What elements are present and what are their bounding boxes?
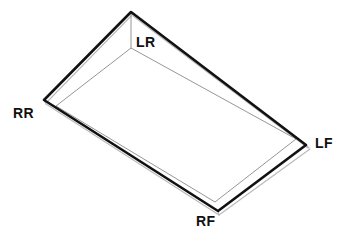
corner-label-lr: LR: [136, 35, 155, 49]
corner-label-rr: RR: [13, 106, 34, 120]
tray-corner-diagram: LR RR LF RF: [0, 0, 346, 238]
corner-label-lf: LF: [315, 136, 333, 150]
tray-diagram-svg: [0, 0, 346, 238]
corner-label-rf: RF: [196, 214, 215, 228]
